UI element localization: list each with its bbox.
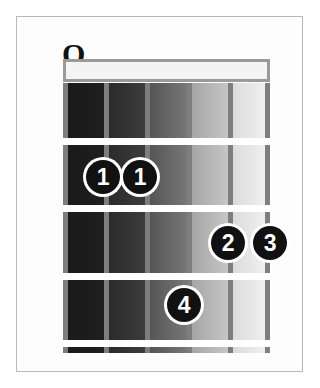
- string-line-2: [104, 83, 109, 353]
- fret-line-4: [63, 340, 270, 347]
- finger-dot-3-string-6: 3: [253, 226, 287, 260]
- finger-dot-1-string-3: 1: [123, 160, 157, 194]
- finger-dot-1-string-2: 1: [86, 160, 120, 194]
- string-line-5: [228, 83, 233, 353]
- finger-dot-4-string-4: 4: [167, 288, 201, 322]
- fret-line-2: [63, 205, 270, 212]
- nut-bar: [63, 59, 270, 82]
- finger-dot-2-string-5: 2: [211, 226, 245, 260]
- string-line-6: [265, 83, 270, 353]
- fretboard-cell: [68, 83, 104, 353]
- string-line-3: [145, 83, 150, 353]
- fretboard-body: [63, 83, 270, 353]
- fretboard: [60, 58, 273, 354]
- chord-diagram-card: O 11234: [0, 0, 320, 388]
- fretboard-cell: [233, 83, 265, 353]
- open-string-marker-row: O: [16, 18, 303, 58]
- string-line-1: [63, 83, 68, 353]
- fret-line-1: [63, 138, 270, 145]
- fret-line-3: [63, 273, 270, 280]
- fretboard-cell: [109, 83, 145, 353]
